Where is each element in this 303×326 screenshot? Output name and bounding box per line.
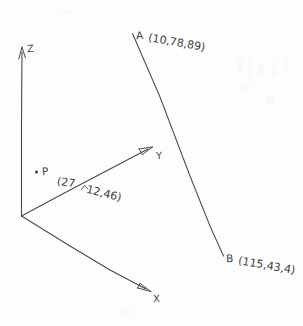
point-p-marker (35, 171, 38, 174)
x-axis-label: X (153, 293, 160, 304)
segment-ab-line (133, 34, 224, 257)
z-axis-line (22, 52, 23, 216)
y-axis-line (22, 149, 149, 216)
y-axis-label: Y (156, 150, 163, 161)
z-axis-group (19, 47, 26, 216)
z-axis-label: Z (27, 43, 35, 54)
sketch-canvas: Z Y X P (27 12,46) A (10,78,89) B (115,4… (0, 0, 303, 326)
point-p-coords-part1: (27 (56, 175, 76, 191)
segment-ab-group (133, 34, 224, 257)
y-axis-group (22, 147, 153, 216)
point-b-label: B (226, 252, 234, 264)
point-a-label: A (136, 29, 144, 41)
x-axis-line (22, 216, 147, 289)
sketch-drawing (0, 0, 303, 326)
x-axis-group (22, 216, 152, 292)
point-p-label: P (42, 165, 49, 177)
